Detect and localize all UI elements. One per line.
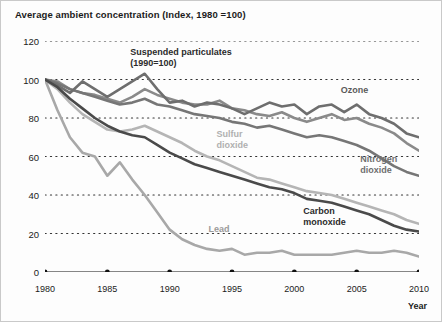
series-line <box>45 74 419 138</box>
x-tick-marker <box>354 270 359 272</box>
y-tick-label: 120 <box>23 36 39 47</box>
x-tick-marker <box>167 270 172 272</box>
x-tick-marker <box>417 270 419 272</box>
x-tick-label: 1995 <box>222 284 242 294</box>
x-axis-title: Year <box>408 301 427 311</box>
series-label-ozone: Ozone <box>341 85 369 96</box>
series-label-carbon-monoxide: Carbon monoxide <box>303 206 346 227</box>
x-tick-label: 2000 <box>284 284 304 294</box>
y-tick-label: 40 <box>28 190 39 201</box>
chart-figure: Average ambient concentration (Index, 19… <box>0 0 442 322</box>
y-tick-label: 80 <box>28 113 39 124</box>
x-tick-marker <box>45 270 47 272</box>
series-label-lead: Lead <box>209 224 230 235</box>
series-label-sulfur-dioxide: Sulfur dioxide <box>216 129 248 150</box>
series-label-suspended-particulates: Suspended particulates (1990=100) <box>130 47 232 68</box>
x-tick-marker <box>105 270 110 272</box>
chart-title: Average ambient concentration (Index, 19… <box>15 9 246 20</box>
x-tick-marker <box>292 270 297 272</box>
y-tick-label: 20 <box>28 228 39 239</box>
series-label-nitrogen-dioxide: Nitrogen dioxide <box>360 154 397 175</box>
x-tick-label: 2010 <box>409 284 429 294</box>
x-tick-label: 1980 <box>35 284 55 294</box>
y-tick-label: 0 <box>34 267 39 278</box>
x-tick-label: 1990 <box>160 284 180 294</box>
x-axis-ticks: 1980198519901995200020052010 <box>45 284 419 298</box>
y-tick-label: 100 <box>23 74 39 85</box>
x-tick-marker <box>230 270 235 272</box>
series-line <box>45 80 419 224</box>
x-tick-label: 2005 <box>347 284 367 294</box>
y-axis-ticks: 120100806040200 <box>1 41 39 272</box>
y-tick-label: 60 <box>28 151 39 162</box>
x-tick-label: 1985 <box>97 284 117 294</box>
